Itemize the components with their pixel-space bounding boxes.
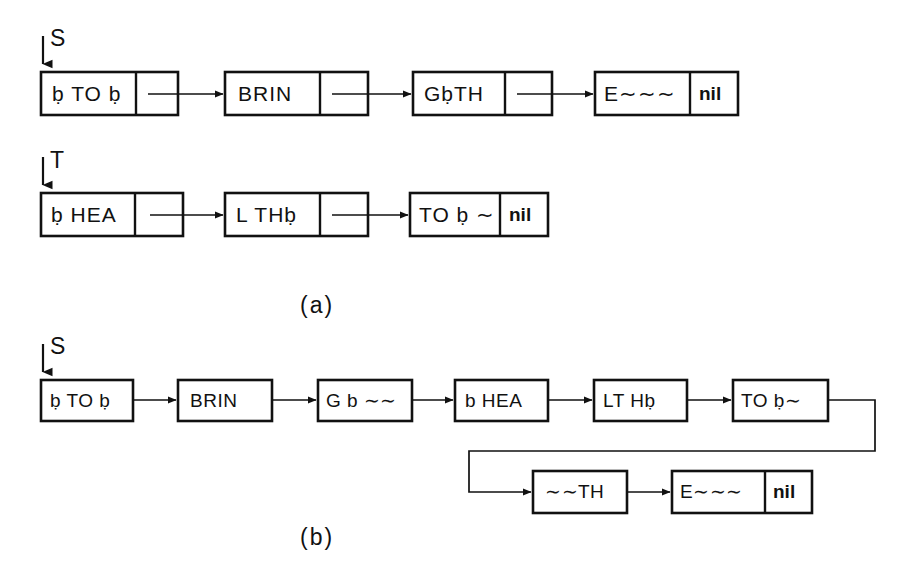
node-a-s-3-data: GḅTH — [424, 82, 484, 105]
node-a-s-1-data: ḅ TO ḅ — [52, 82, 121, 105]
pointer-label-s-bottom: S — [50, 333, 65, 359]
node-a-t-3-data: TO ḅ ∼ — [419, 203, 495, 226]
node-b-1: ḅ TO ḅ — [41, 380, 133, 421]
node-a-t-2-data: L THḅ — [236, 203, 297, 226]
node-b-2-data: BRIN — [190, 390, 237, 411]
node-b-7: ∼∼TH — [533, 471, 627, 513]
node-b-7-data: ∼∼TH — [545, 481, 604, 502]
linked-list-figure: S ḅ TO ḅ BRIN GḅTH E∼∼∼ nil — [0, 0, 904, 577]
node-b-3: G b ∼∼ — [318, 380, 412, 421]
caption-b: (b) — [300, 524, 334, 550]
node-a-s-4: E∼∼∼ nil — [595, 72, 738, 115]
node-b-5-data: LT Hḅ — [603, 390, 656, 411]
node-b-4-data: b HEA — [465, 390, 522, 411]
pointer-label-t: T — [50, 147, 64, 173]
node-b-1-data: ḅ TO ḅ — [50, 390, 110, 411]
node-a-s-4-data: E∼∼∼ — [604, 82, 676, 105]
entry-pointer-s-top: S — [43, 25, 65, 64]
node-b-4: b HEA — [455, 380, 548, 421]
node-b-6-data: TO ḅ∼ — [741, 390, 801, 411]
node-b-2: BRIN — [178, 380, 272, 421]
node-a-s-4-nil-label: nil — [699, 83, 721, 104]
node-a-s-2-data: BRIN — [238, 82, 292, 105]
pointer-label-s-top: S — [50, 25, 65, 51]
node-a-t-3-nil-label: nil — [509, 204, 531, 225]
part-b-list-s: S ḅ TO ḅ BRIN G b ∼∼ b HEA LT Hḅ — [41, 333, 875, 513]
part-a-list-s: S ḅ TO ḅ BRIN GḅTH E∼∼∼ nil — [41, 25, 738, 115]
node-b-8-nil-label: nil — [773, 481, 795, 502]
entry-pointer-t: T — [43, 147, 64, 185]
node-b-8-data: E∼∼∼ — [680, 481, 743, 502]
node-b-5: LT Hḅ — [594, 380, 687, 421]
caption-a: (a) — [300, 292, 334, 318]
part-a-list-t: T ḅ HEA L THḅ TO ḅ ∼ nil — [41, 147, 548, 236]
node-a-t-1-data: ḅ HEA — [51, 203, 117, 226]
node-b-6: TO ḅ∼ — [733, 380, 828, 421]
node-b-8: E∼∼∼ nil — [672, 471, 812, 513]
node-a-t-3: TO ḅ ∼ nil — [410, 193, 548, 236]
node-b-3-data: G b ∼∼ — [326, 390, 397, 411]
entry-pointer-s-bottom: S — [43, 333, 65, 372]
